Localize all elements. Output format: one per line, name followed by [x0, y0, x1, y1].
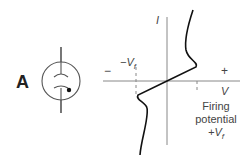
firing-line2: potential	[190, 113, 242, 126]
diagram-canvas: A − + I V −Vf Firing potential +Vf	[0, 0, 249, 167]
pos-vf-label: +Vf	[190, 126, 242, 143]
firing-potential-label: Firing potential +Vf	[190, 100, 242, 143]
negative-sign: −	[104, 64, 111, 78]
y-axis-label: I	[156, 14, 159, 26]
x-axis-label: V	[221, 85, 228, 97]
discharge-tube-icon	[42, 47, 80, 113]
neg-vf-label: −Vf	[120, 56, 136, 71]
panel-label: A	[16, 72, 29, 93]
positive-sign: +	[221, 64, 228, 78]
firing-line1: Firing	[190, 100, 242, 113]
